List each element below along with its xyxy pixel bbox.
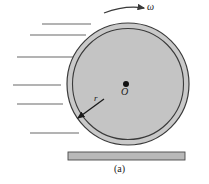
- figure-caption: (a): [114, 164, 125, 174]
- center-point-label: O: [121, 87, 128, 97]
- angular-velocity-label: ω: [147, 2, 154, 12]
- omega-rotation-arrow: [104, 7, 144, 13]
- wheel-diagram-svg: [0, 0, 209, 184]
- radius-label: r: [94, 94, 98, 103]
- figure-container: ω O r (a): [0, 0, 209, 184]
- ground-surface: [68, 152, 185, 160]
